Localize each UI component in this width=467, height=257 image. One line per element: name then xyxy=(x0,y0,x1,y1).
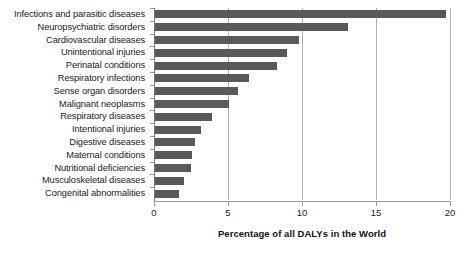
bar-row xyxy=(154,34,450,47)
bar-row xyxy=(154,72,450,85)
category-label: Neuropsychiatric disorders xyxy=(0,21,150,34)
bar-row xyxy=(154,59,450,72)
category-label: Respiratory diseases xyxy=(0,110,150,123)
bar xyxy=(154,190,179,198)
bar-row xyxy=(154,21,450,34)
bar-row xyxy=(154,8,450,21)
bar xyxy=(154,113,212,121)
bar xyxy=(154,164,191,172)
category-label: Respiratory infections xyxy=(0,72,150,85)
category-label: Unintentional injuries xyxy=(0,46,150,59)
category-label: Sense organ disorders xyxy=(0,85,150,98)
bar-row xyxy=(154,187,450,200)
bar xyxy=(154,10,446,18)
category-label: Malignant neoplasms xyxy=(0,98,150,111)
category-label: Congenital abnormalities xyxy=(0,187,150,200)
category-label: Intentional injuries xyxy=(0,123,150,136)
bar xyxy=(154,36,299,44)
bar-row xyxy=(154,149,450,162)
category-axis-labels: Infections and parasitic diseasesNeurops… xyxy=(0,8,150,200)
bar xyxy=(154,151,192,159)
bar xyxy=(154,100,229,108)
category-label: Infections and parasitic diseases xyxy=(0,8,150,21)
bar-row xyxy=(154,110,450,123)
bar-row xyxy=(154,162,450,175)
x-axis-tick-label: 0 xyxy=(134,207,174,218)
gridline xyxy=(450,8,451,200)
bar xyxy=(154,23,348,31)
x-axis-tick xyxy=(376,201,377,206)
x-axis-tick-label: 20 xyxy=(430,207,467,218)
x-axis-tick xyxy=(450,201,451,206)
category-label: Perinatal conditions xyxy=(0,59,150,72)
bar xyxy=(154,49,287,57)
bar-row xyxy=(154,85,450,98)
bar-chart: Infections and parasitic diseasesNeurops… xyxy=(0,0,467,257)
bar-row xyxy=(154,174,450,187)
category-label: Nutritional deficiencies xyxy=(0,162,150,175)
plot-area xyxy=(154,8,450,200)
value-axis-line xyxy=(154,8,155,202)
bar-row xyxy=(154,136,450,149)
x-axis-tick xyxy=(154,201,155,206)
x-axis-title: Percentage of all DALYs in the World xyxy=(154,228,450,239)
category-label: Cardiovascular diseases xyxy=(0,34,150,47)
bar-row xyxy=(154,46,450,59)
x-axis-tick-label: 15 xyxy=(356,207,396,218)
bar xyxy=(154,87,238,95)
category-label: Maternal conditions xyxy=(0,149,150,162)
x-axis-tick xyxy=(302,201,303,206)
bar-row xyxy=(154,123,450,136)
bar xyxy=(154,138,195,146)
category-label: Digestive diseases xyxy=(0,136,150,149)
bar xyxy=(154,74,249,82)
bar xyxy=(154,177,184,185)
bar xyxy=(154,126,201,134)
x-axis-tick xyxy=(228,201,229,206)
x-axis-tick-label: 5 xyxy=(208,207,248,218)
bar-row xyxy=(154,98,450,111)
category-label: Musculoskeletal diseases xyxy=(0,174,150,187)
x-axis-tick-label: 10 xyxy=(282,207,322,218)
bar xyxy=(154,62,277,70)
